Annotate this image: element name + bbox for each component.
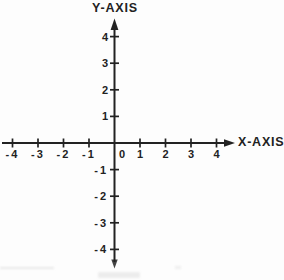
coordinate-plane-figure: Y-AXIS X-AXIS -4-3-2-101234-4-3-2-11234: [0, 0, 284, 280]
x-tick-label: 1: [137, 148, 143, 160]
x-tick-label: -3: [31, 148, 45, 160]
y-tick-label: -2: [94, 190, 108, 202]
scan-artifact: [175, 266, 181, 269]
y-tick-label: -4: [94, 243, 108, 255]
y-tick-label: -1: [94, 164, 108, 176]
y-tick-label: -3: [94, 217, 108, 229]
y-axis-arrowhead-up: [111, 19, 119, 31]
y-axis-arrowhead-down: [111, 260, 117, 269]
x-tick-label: 4: [213, 148, 219, 160]
x-tick-label: -1: [82, 148, 96, 160]
axes-canvas: [0, 0, 284, 280]
x-tick-label: 3: [188, 148, 194, 160]
x-tick-label: -4: [6, 148, 20, 160]
y-tick-label: 3: [102, 57, 108, 69]
y-tick-label: 4: [102, 31, 108, 43]
x-tick-label: 2: [162, 148, 168, 160]
scan-artifact: [0, 267, 54, 269]
origin-label: 0: [119, 148, 125, 160]
x-axis-arrowhead-right: [224, 139, 235, 147]
x-tick-label: -2: [57, 148, 71, 160]
scan-artifact: [98, 272, 140, 278]
y-tick-label: 1: [102, 110, 108, 122]
y-tick-label: 2: [102, 84, 108, 96]
